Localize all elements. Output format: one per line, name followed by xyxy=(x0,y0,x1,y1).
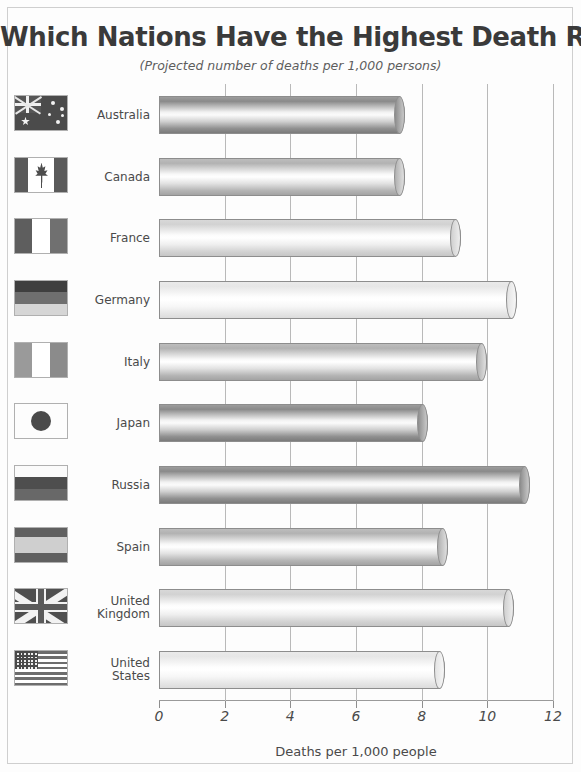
star xyxy=(35,667,37,669)
star xyxy=(17,653,19,655)
chart-page: Which Nations Have the Highest Death Rat… xyxy=(0,0,581,772)
bar-end-cap xyxy=(434,651,445,689)
star-small-1 xyxy=(51,101,55,105)
x-axis-tick xyxy=(159,701,160,708)
bar-end-cap xyxy=(437,528,448,566)
bar-end-cap xyxy=(506,281,517,319)
star xyxy=(17,657,19,659)
band-right xyxy=(54,158,67,192)
bar-spain xyxy=(159,528,448,566)
leaf-stem xyxy=(41,181,42,188)
star xyxy=(31,663,33,665)
country-label-canada: Canada xyxy=(72,171,150,184)
bar-united-kingdom xyxy=(159,589,514,627)
stripe-middle xyxy=(15,477,67,488)
x-axis-tick-label: 10 xyxy=(478,708,496,724)
star xyxy=(35,657,37,659)
bar-russia xyxy=(159,466,530,504)
flag-united-kingdom-icon xyxy=(14,588,68,624)
x-axis-tick xyxy=(356,701,357,708)
star xyxy=(31,653,33,655)
band-right xyxy=(50,343,67,377)
bar-australia xyxy=(159,96,405,134)
chart-subtitle: (Projected number of deaths per 1,000 pe… xyxy=(0,58,581,73)
country-label-germany: Germany xyxy=(72,294,150,307)
plot-area: 024681012 xyxy=(159,84,553,701)
star xyxy=(21,667,23,669)
x-axis-tick-label: 8 xyxy=(417,708,426,724)
star xyxy=(21,660,23,662)
stripe-bottom xyxy=(15,304,67,315)
star xyxy=(35,653,37,655)
stripe-bottom xyxy=(15,489,67,500)
stripe xyxy=(15,677,67,680)
star xyxy=(35,663,37,665)
flag-united-states-icon xyxy=(14,650,68,686)
star xyxy=(17,667,19,669)
star-small-4 xyxy=(56,120,60,124)
country-label-spain: Spain xyxy=(72,541,150,554)
stripe-middle xyxy=(15,537,67,553)
star xyxy=(24,653,26,655)
bar-end-cap xyxy=(519,466,530,504)
star xyxy=(31,657,33,659)
flag-spain-icon xyxy=(14,527,68,563)
bar-italy xyxy=(159,343,487,381)
stripe-middle xyxy=(15,292,67,303)
x-axis-tick-label: 2 xyxy=(220,708,229,724)
star xyxy=(21,653,23,655)
page-title: Which Nations Have the Highest Death Rat… xyxy=(0,22,581,52)
star xyxy=(31,667,33,669)
x-axis-tick xyxy=(225,701,226,708)
star xyxy=(28,663,30,665)
gridline xyxy=(553,84,554,701)
x-axis-label: Deaths per 1,000 people xyxy=(159,744,553,759)
bar-canada xyxy=(159,158,405,196)
country-label-united-kingdom: UnitedKingdom xyxy=(72,595,150,621)
x-axis-tick-label: 0 xyxy=(155,708,164,724)
stripe xyxy=(15,683,67,686)
x-axis-tick xyxy=(290,701,291,708)
star xyxy=(35,660,37,662)
bar-france xyxy=(159,219,461,257)
star xyxy=(28,653,30,655)
stripe-top xyxy=(15,528,67,537)
flag-australia-icon xyxy=(14,95,68,131)
flag-canada-icon xyxy=(14,157,68,193)
bar-end-cap xyxy=(394,158,405,196)
star xyxy=(17,663,19,665)
country-label-russia: Russia xyxy=(72,479,150,492)
star xyxy=(17,660,19,662)
country-label-japan: Japan xyxy=(72,417,150,430)
stripe xyxy=(15,672,67,675)
bar-end-cap xyxy=(503,589,514,627)
country-label-france: France xyxy=(72,232,150,245)
stripe-top xyxy=(15,281,67,292)
x-axis-tick-label: 6 xyxy=(352,708,361,724)
star xyxy=(24,663,26,665)
flag-germany-icon xyxy=(14,280,68,316)
star xyxy=(28,657,30,659)
flag-france-icon xyxy=(14,218,68,254)
cross-dark-v xyxy=(38,589,44,623)
star xyxy=(21,657,23,659)
x-axis-tick-label: 4 xyxy=(286,708,295,724)
star-small-3 xyxy=(48,113,51,116)
x-axis-tick xyxy=(553,701,554,708)
star xyxy=(28,660,30,662)
x-axis-tick xyxy=(422,701,423,708)
x-axis-tick xyxy=(487,701,488,708)
country-label-italy: Italy xyxy=(72,356,150,369)
stripe-top xyxy=(15,466,67,477)
flag-italy-icon xyxy=(14,342,68,378)
band-left xyxy=(15,158,28,192)
bar-end-cap xyxy=(450,219,461,257)
band-right xyxy=(50,219,67,253)
star xyxy=(24,657,26,659)
flag-japan-icon xyxy=(14,403,68,439)
star-small-2 xyxy=(60,107,64,111)
star xyxy=(24,660,26,662)
bar-end-cap xyxy=(417,404,428,442)
bar-japan xyxy=(159,404,428,442)
bar-united-states xyxy=(159,651,445,689)
